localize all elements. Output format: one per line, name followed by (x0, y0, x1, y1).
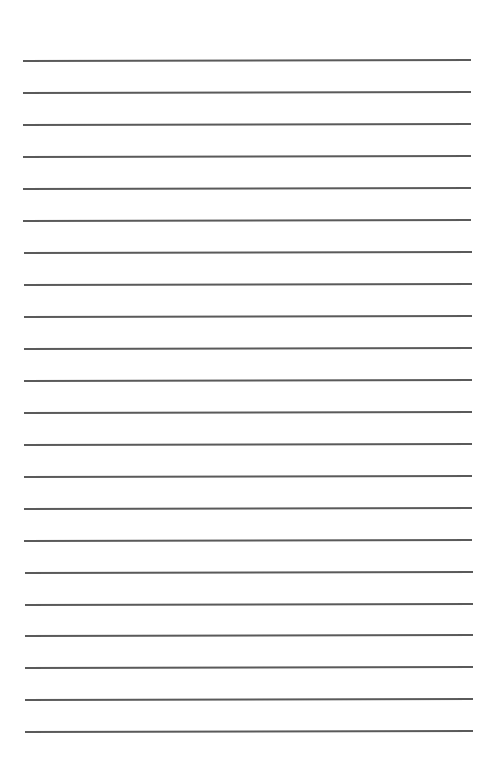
ruled-line (25, 603, 473, 606)
ruled-line (24, 347, 472, 350)
ruled-line (24, 315, 472, 318)
ruled-line (24, 475, 472, 478)
ruled-line (24, 251, 472, 254)
ruled-line (23, 59, 471, 62)
ruled-line (24, 379, 472, 382)
ruled-line (25, 730, 473, 733)
ruled-line (24, 539, 472, 542)
ruled-line (25, 571, 473, 574)
ruled-line (24, 411, 472, 414)
ruled-line (23, 123, 471, 126)
ruled-line (25, 635, 473, 638)
ruled-line (24, 443, 472, 446)
lined-paper-page (0, 0, 492, 764)
ruled-line (23, 187, 471, 190)
ruled-line (23, 219, 471, 222)
ruled-line (25, 667, 473, 670)
ruled-line (24, 507, 472, 510)
ruled-line (25, 698, 473, 701)
ruled-line (24, 283, 472, 286)
ruled-line (23, 155, 471, 158)
ruled-line (23, 91, 471, 94)
